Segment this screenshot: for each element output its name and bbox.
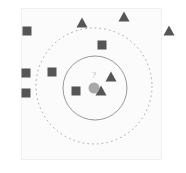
query-point-label: ? bbox=[92, 71, 96, 80]
triangle-class-marker bbox=[164, 26, 175, 36]
diagram-canvas: ? bbox=[0, 0, 186, 173]
data-points bbox=[22, 12, 175, 98]
square-class-marker bbox=[22, 69, 31, 78]
query-point-marker bbox=[89, 83, 100, 94]
square-class-marker bbox=[72, 87, 81, 96]
scatter-plot bbox=[0, 0, 186, 173]
triangle-class-marker bbox=[119, 12, 130, 22]
square-class-marker bbox=[98, 41, 107, 50]
square-class-marker bbox=[22, 89, 31, 98]
triangle-class-marker bbox=[106, 72, 117, 82]
square-class-marker bbox=[48, 68, 57, 77]
triangle-class-marker bbox=[77, 18, 88, 28]
square-class-marker bbox=[23, 27, 32, 36]
